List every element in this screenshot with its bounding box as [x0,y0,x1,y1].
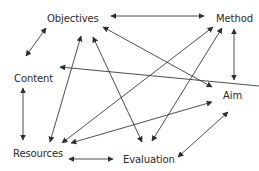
edge-objectives-aim [103,27,212,87]
edge-evaluation-method [152,28,222,141]
edge-aim-content [60,67,259,86]
edge-resources-method [62,27,213,143]
edge-resources-aim [71,102,212,143]
node-content: Content [14,73,53,85]
node-resources: Resources [13,148,63,160]
node-evaluation: Evaluation [123,154,175,166]
curriculum-relationship-diagram [0,0,259,171]
node-objectives: Objectives [47,13,99,25]
edge-layer [23,16,259,159]
edge-evaluation-aim [178,112,228,157]
node-method: Method [216,13,253,25]
edge-evaluation-objectives [93,37,142,142]
edge-resources-objectives [50,36,81,142]
edge-objectives-content [26,28,46,56]
node-aim: Aim [223,90,242,102]
